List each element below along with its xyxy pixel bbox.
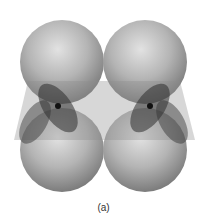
contact-point-right xyxy=(147,103,153,109)
contact-point-left xyxy=(55,103,61,109)
sphere-plane-diagram xyxy=(0,0,207,200)
figure-caption: (a) xyxy=(0,202,207,213)
